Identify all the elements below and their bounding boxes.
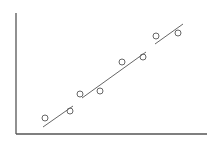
data-point-marker [77, 91, 83, 97]
scatter-chart [0, 0, 207, 144]
data-point-marker [119, 59, 125, 65]
data-point-marker [140, 54, 146, 60]
trend-line-segment [155, 24, 183, 44]
trend-line [43, 24, 183, 127]
data-points [42, 30, 181, 121]
data-point-marker [97, 88, 103, 94]
axes [16, 13, 207, 134]
trend-line-segment [82, 52, 146, 98]
data-point-marker [42, 115, 48, 121]
data-point-marker [67, 108, 73, 114]
data-point-marker [153, 33, 159, 39]
data-point-marker [175, 30, 181, 36]
